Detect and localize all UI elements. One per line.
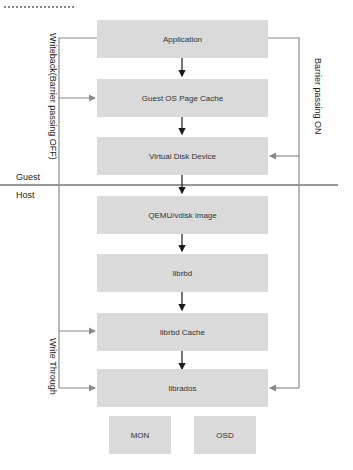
box-application: Application [97,20,268,58]
region-label-guest: Guest [16,172,40,182]
box-qemu-vdisk-image: QEMU/vdisk image [97,196,268,234]
box-mon: MON [109,416,171,454]
box-librbd: librbd [97,254,268,292]
right-path-line [268,38,299,388]
left-path-line [59,38,97,388]
label-writeback-barrier-off: Writeback(Barrier passing OFF) [48,33,58,160]
box-virtual-disk-device: Virtual Disk Device [97,137,268,175]
label-barrier-passing-on: Barrier passing ON [313,58,323,135]
region-label-host: Host [16,190,35,200]
box-librados: librados [97,369,268,407]
box-osd: OSD [194,416,256,454]
label-write-through: Write Through [48,338,58,395]
box-librbd-cache: librbd Cache [97,313,268,351]
box-guest-os-page-cache: Guest OS Page Cache [97,79,268,117]
